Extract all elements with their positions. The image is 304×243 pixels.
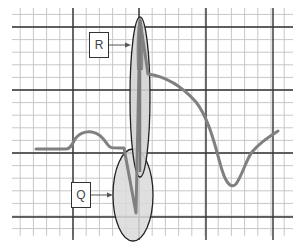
r-arrow-head-icon (125, 43, 131, 48)
q-wave-label: Q (71, 182, 91, 208)
ecg-diagram (0, 0, 304, 243)
r-wave-label: R (89, 32, 109, 58)
